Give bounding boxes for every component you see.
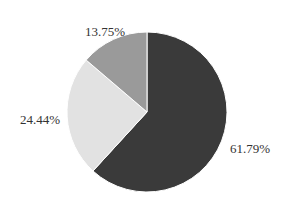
slice-label-mid: 13.75%	[85, 25, 125, 38]
slice-label-dark: 61.79%	[230, 142, 270, 155]
pie-chart	[0, 0, 282, 208]
pie-slices	[67, 32, 227, 192]
slice-label-light: 24.44%	[20, 113, 60, 126]
